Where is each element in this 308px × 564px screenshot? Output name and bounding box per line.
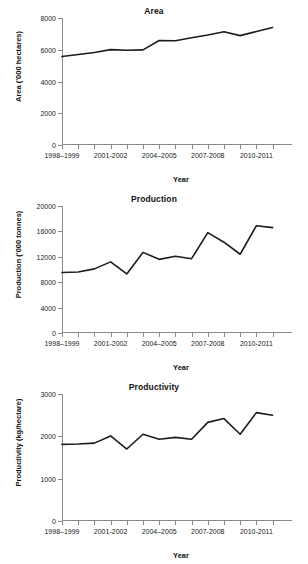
x-axis-tick: [143, 333, 144, 337]
y-axis-tick: [58, 436, 62, 437]
x-axis-tick-label: 2001-2002: [94, 528, 127, 535]
x-axis-tick: [127, 333, 128, 337]
x-axis-tick: [240, 521, 241, 525]
line-series-production: [62, 206, 292, 333]
y-axis-tick-label: 12000: [37, 253, 56, 260]
x-axis-tick: [240, 145, 241, 149]
x-axis-tick: [273, 145, 274, 149]
x-axis-tick: [208, 521, 209, 525]
x-axis-tick: [224, 333, 225, 337]
x-axis-tick-label: 2004–2005: [142, 340, 177, 347]
x-axis-tick: [208, 333, 209, 337]
x-axis-tick-label: 2001-2002: [94, 152, 127, 159]
y-axis-tick: [58, 50, 62, 51]
x-axis-label-area: Year: [62, 175, 300, 184]
x-axis-tick: [256, 145, 257, 149]
y-axis-tick-label: 4000: [40, 304, 56, 311]
x-axis-tick: [256, 521, 257, 525]
x-axis-tick-label: 2007-2008: [191, 152, 224, 159]
x-axis-tick-label: 2010-2011: [240, 528, 273, 535]
x-axis-tick: [224, 521, 225, 525]
x-axis-tick: [192, 521, 193, 525]
x-axis-tick-label: 2004–2005: [142, 152, 177, 159]
line-series-area: [62, 18, 292, 145]
y-axis-tick-label: 0: [52, 330, 56, 337]
y-axis-tick-label: 0: [52, 142, 56, 149]
y-axis-tick: [58, 394, 62, 395]
x-axis-tick-label: 1998–1999: [44, 340, 79, 347]
y-axis-tick: [58, 479, 62, 480]
x-axis-tick: [94, 333, 95, 337]
x-axis-tick-label: 2010-2011: [240, 340, 273, 347]
x-axis-tick: [208, 145, 209, 149]
x-axis-tick: [111, 521, 112, 525]
y-axis-tick-label: 3000: [40, 391, 56, 398]
y-axis-tick: [58, 206, 62, 207]
y-axis-tick: [58, 282, 62, 283]
y-axis-tick: [58, 231, 62, 232]
y-axis-tick: [58, 308, 62, 309]
chart-panel-productivity: Productivity Productivity (kg/hectare) 0…: [0, 376, 308, 564]
line-series-productivity: [62, 394, 292, 521]
y-axis-label-productivity: Productivity (kg/hectare): [14, 378, 23, 508]
plot-area-area: 020004000600080001998–19992001-20022004–…: [62, 18, 292, 145]
x-axis-tick: [175, 333, 176, 337]
x-axis-label-productivity: Year: [62, 551, 300, 560]
x-axis-tick: [111, 333, 112, 337]
y-axis-tick: [58, 113, 62, 114]
plot-area-productivity: 01000200030001998–19992001-20022004–2005…: [62, 394, 292, 521]
x-axis-tick: [143, 521, 144, 525]
x-axis-tick: [78, 333, 79, 337]
x-axis-tick: [175, 521, 176, 525]
y-axis-tick-label: 6000: [40, 46, 56, 53]
figure-three-line-charts: Area Area ('000 hectares) 02000400060008…: [0, 0, 308, 564]
x-axis-tick: [224, 145, 225, 149]
x-axis-tick-label: 2001-2002: [94, 340, 127, 347]
y-axis-tick-label: 4000: [40, 78, 56, 85]
x-axis-tick: [159, 521, 160, 525]
y-axis-tick-label: 8000: [40, 279, 56, 286]
x-axis-tick: [62, 333, 63, 337]
y-axis-tick-label: 2000: [40, 433, 56, 440]
y-axis-tick-label: 8000: [40, 15, 56, 22]
x-axis-tick-label: 1998–1999: [44, 528, 79, 535]
plot-area-production: 0400080001200016000200001998–19992001-20…: [62, 206, 292, 333]
x-axis-tick: [111, 145, 112, 149]
y-axis-tick-label: 16000: [37, 228, 56, 235]
y-axis-tick: [58, 82, 62, 83]
x-axis-label-production: Year: [62, 363, 300, 372]
chart-panel-production: Production Production ('000 tonnes) 0400…: [0, 188, 308, 376]
y-axis-tick-label: 2000: [40, 110, 56, 117]
x-axis-tick-label: 2010-2011: [240, 152, 273, 159]
chart-panel-area: Area Area ('000 hectares) 02000400060008…: [0, 0, 308, 188]
x-axis-tick: [78, 145, 79, 149]
x-axis-tick-label: 2007-2008: [191, 528, 224, 535]
x-axis-tick: [62, 145, 63, 149]
x-axis-tick: [78, 521, 79, 525]
x-axis-tick: [192, 333, 193, 337]
x-axis-tick: [127, 145, 128, 149]
y-axis-tick-label: 1000: [40, 475, 56, 482]
x-axis-tick: [273, 333, 274, 337]
x-axis-tick-label: 1998–1999: [44, 152, 79, 159]
x-axis-tick: [94, 521, 95, 525]
y-axis-tick-label: 20000: [37, 203, 56, 210]
y-axis-tick-label: 0: [52, 518, 56, 525]
x-axis-tick: [273, 521, 274, 525]
x-axis-tick: [159, 333, 160, 337]
y-axis-label-production: Production ('000 tonnes): [14, 190, 23, 320]
x-axis-tick: [143, 145, 144, 149]
x-axis-tick-label: 2004–2005: [142, 528, 177, 535]
x-axis-tick-label: 2007-2008: [191, 340, 224, 347]
x-axis-tick: [62, 521, 63, 525]
x-axis-tick: [175, 145, 176, 149]
x-axis-tick: [127, 521, 128, 525]
y-axis-tick: [58, 18, 62, 19]
x-axis-tick: [192, 145, 193, 149]
y-axis-tick: [58, 257, 62, 258]
x-axis-tick: [240, 333, 241, 337]
y-axis-label-area: Area ('000 hectares): [14, 2, 23, 132]
x-axis-tick: [256, 333, 257, 337]
x-axis-tick: [159, 145, 160, 149]
x-axis-tick: [94, 145, 95, 149]
